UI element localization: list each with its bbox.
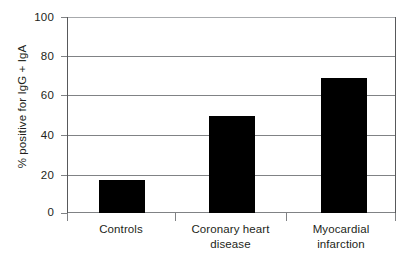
- bar-coronary-heart-disease: [209, 116, 255, 214]
- y-axis-tick-labels: 100 80 60 40 20 0: [26, 0, 54, 261]
- x-label-myocardial-infarction-line-2: infarction: [286, 237, 396, 252]
- x-label-myocardial-infarction-line-1: Myocardial: [286, 222, 396, 237]
- x-label-coronary-heart-disease-line-1: Coronary heart: [175, 222, 286, 237]
- y-tick-label-100: 100: [26, 12, 54, 23]
- x-tick-mark-2: [286, 213, 287, 221]
- x-label-controls: Controls: [67, 222, 175, 237]
- x-label-myocardial-infarction: Myocardial infarction: [286, 222, 396, 252]
- bars-layer: [68, 17, 395, 213]
- y-tick-label-20: 20: [26, 170, 54, 181]
- y-tick-label-60: 60: [26, 90, 54, 101]
- x-axis-category-labels: Controls Coronary heart disease Myocardi…: [67, 222, 396, 260]
- x-label-coronary-heart-disease-line-2: disease: [175, 237, 286, 252]
- bar-myocardial-infarction: [321, 78, 367, 213]
- x-label-controls-line-1: Controls: [67, 222, 175, 237]
- bar-controls: [99, 180, 145, 213]
- x-tick-mark-1: [175, 213, 176, 221]
- y-tick-label-0: 0: [26, 207, 54, 218]
- y-tick-label-80: 80: [26, 51, 54, 62]
- x-tick-mark-0: [67, 213, 68, 221]
- y-tick-label-40: 40: [26, 130, 54, 141]
- plot-area: [67, 17, 396, 213]
- bar-chart-figure: % positive for IgG + IgA 100 80 60 40 20…: [0, 0, 415, 261]
- x-tick-mark-3: [395, 213, 396, 221]
- x-label-coronary-heart-disease: Coronary heart disease: [175, 222, 286, 252]
